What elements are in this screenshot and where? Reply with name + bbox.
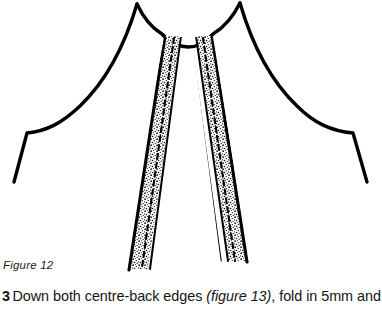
garment-outline: [14, 3, 367, 182]
figure-caption: Figure 12: [3, 259, 53, 271]
right-shoulder-to-neck-outline: [213, 3, 240, 34]
left-sleeve-outline: [14, 4, 137, 182]
left-centre-back-band: [129, 36, 186, 270]
instruction-text-after: , fold in 5mm and: [271, 288, 381, 304]
instruction-figure-reference: (figure 13): [206, 288, 271, 304]
instruction-step-number: 3: [2, 288, 10, 304]
figure-illustration: [0, 0, 382, 280]
right-centre-back-band: [191, 36, 247, 262]
right-band-fill: [197, 36, 246, 261]
instruction-line: 3Down both centre-back edges (figure 13)…: [2, 288, 381, 304]
instruction-text-before: Down both centre-back edges: [12, 288, 206, 304]
left-shoulder-to-neck-outline: [137, 4, 162, 34]
right-sleeve-outline: [240, 3, 367, 182]
